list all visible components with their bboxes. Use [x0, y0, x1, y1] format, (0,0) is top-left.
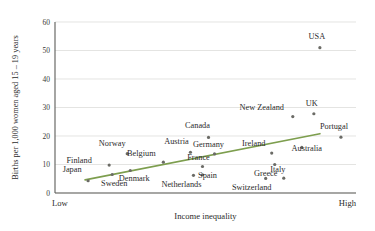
y-tick-label: 0 — [46, 189, 50, 198]
data-point — [213, 152, 216, 155]
y-axis-tick-labels: 0102030405060 — [43, 18, 51, 198]
data-point-label: Netherlands — [161, 180, 201, 189]
data-point — [111, 173, 114, 176]
data-point-label: Denmark — [119, 174, 151, 183]
data-point — [339, 136, 342, 139]
chart-canvas: 0102030405060 JapanSwedenFinlandNorwayDe… — [0, 0, 375, 231]
data-point-labels: JapanSwedenFinlandNorwayDenmarkBelgiumAu… — [63, 32, 349, 193]
data-point — [207, 136, 210, 139]
data-point-label: France — [187, 153, 210, 162]
data-point — [162, 161, 165, 164]
data-points — [87, 46, 343, 182]
y-tick-label: 60 — [43, 18, 51, 27]
data-point-label: Greece — [254, 169, 278, 178]
x-axis-low-label: Low — [52, 198, 69, 208]
y-axis-title: Births per 1,000 women aged 15 – 19 year… — [11, 35, 20, 179]
data-point-label: Spain — [198, 171, 218, 180]
data-point — [129, 169, 132, 172]
data-point-label: Canada — [185, 121, 210, 130]
y-tick-label: 30 — [43, 103, 51, 112]
scatter-chart: 0102030405060 JapanSwedenFinlandNorwayDe… — [0, 0, 375, 231]
y-tick-label: 10 — [43, 160, 51, 169]
data-point — [291, 115, 294, 118]
data-point-label: Australia — [292, 144, 323, 153]
x-axis-title: Income inequality — [174, 211, 237, 221]
data-point — [282, 177, 285, 180]
y-tick-label: 40 — [43, 75, 51, 84]
x-axis-high-label: High — [339, 198, 357, 208]
data-point — [270, 152, 273, 155]
y-tick-label: 20 — [43, 132, 51, 141]
data-point-label: Germany — [193, 140, 225, 149]
data-point — [318, 46, 321, 49]
data-point-label: New Zealand — [240, 103, 285, 112]
data-point — [192, 174, 195, 177]
data-point-label: Ireland — [242, 139, 266, 148]
data-point — [108, 163, 111, 166]
data-point-label: Portugal — [320, 122, 349, 131]
data-point — [201, 165, 204, 168]
data-point-label: Japan — [63, 165, 83, 174]
data-point-label: UK — [306, 99, 318, 108]
data-point-label: USA — [309, 32, 326, 41]
data-point — [87, 179, 90, 182]
data-point-label: Belgium — [127, 149, 156, 158]
data-point-label: Austria — [164, 137, 189, 146]
data-point-label: Norway — [99, 139, 127, 148]
data-point-label: Finland — [67, 156, 93, 165]
data-point-label: Switzerland — [232, 183, 272, 192]
y-tick-label: 50 — [43, 46, 51, 55]
data-point — [312, 112, 315, 115]
